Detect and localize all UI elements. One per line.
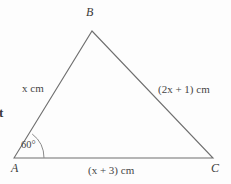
side-label-ab: x cm — [22, 83, 44, 94]
side-label-ac: (x + 3) cm — [88, 165, 134, 176]
vertex-label-a: A — [11, 162, 18, 174]
angle-label-a: 60° — [21, 140, 36, 151]
side-label-bc: (2x + 1) cm — [158, 84, 210, 95]
triangle-figure: B A C x cm (2x + 1) cm (x + 3) cm 60° t — [0, 0, 231, 184]
vertex-label-c: C — [211, 162, 219, 174]
vertex-label-b: B — [86, 6, 93, 18]
cropped-text-fragment: t — [0, 105, 3, 121]
